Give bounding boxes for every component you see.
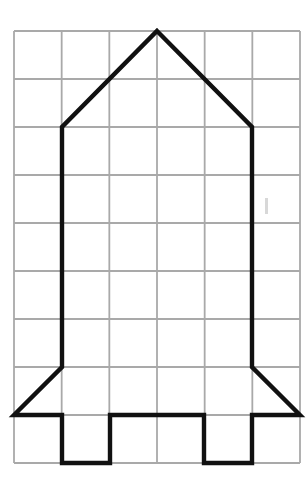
- figure-canvas: [0, 0, 307, 483]
- page-background: [0, 0, 307, 483]
- faint-smudge: [265, 198, 268, 214]
